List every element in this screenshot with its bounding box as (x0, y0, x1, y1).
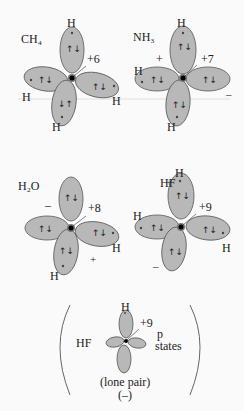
h-label: H (222, 241, 231, 255)
sign-label: + (166, 176, 172, 188)
svg-text:↑↓: ↑↓ (202, 225, 217, 235)
svg-text:↑↓: ↑↓ (38, 75, 53, 85)
h-label: H (133, 209, 142, 223)
sign-label: – (225, 88, 232, 100)
orbital-diagram: ↑↓ ↑↓ ↑↓ ↓↑ CH₄ H H H H +6 ↑↓ ↑↓ ↑↓ ↑↓ N… (0, 0, 244, 411)
lobe-up (119, 310, 133, 338)
states-label: states (155, 339, 182, 353)
h-label: H (177, 16, 186, 30)
left-bracket (60, 305, 70, 395)
svg-text:↓↑: ↓↑ (58, 99, 73, 109)
charge-label: +9 (199, 200, 212, 214)
charge-label: +6 (87, 52, 100, 66)
h-label: H (112, 241, 121, 255)
nucleus (69, 226, 74, 231)
molecule-label: H₂O (18, 179, 40, 193)
right-bracket (190, 305, 200, 395)
svg-text:↑↓: ↑↓ (150, 223, 165, 233)
svg-text:↑↓: ↑↓ (172, 100, 187, 110)
panel-h2o: ↑↓ ↑↓ ↑↓ ↑↓ H₂O H H – + +8 (18, 177, 121, 283)
svg-text:↑↓: ↑↓ (177, 42, 192, 52)
h-label: H (167, 120, 176, 134)
svg-text:↑↓: ↑↓ (92, 228, 107, 238)
panel-hf: ↑↓ ↑↓ ↑↓ ↑↓ HF H H H + – +9 (133, 166, 231, 272)
charge-label: +8 (88, 201, 101, 215)
sign-label: – (152, 260, 159, 272)
nucleus (70, 76, 75, 81)
charge-label: +9 (140, 316, 153, 330)
sign-label: – (44, 198, 52, 212)
svg-text:↑↓: ↑↓ (202, 75, 217, 85)
molecule-label: HF (76, 336, 92, 350)
molecule-label: NH₃ (133, 30, 155, 44)
molecule-label: CH₄ (21, 32, 42, 46)
svg-text:↑↓: ↑↓ (150, 75, 165, 85)
h-label: H (50, 269, 59, 283)
lobe-right (127, 337, 146, 350)
panel-ch4: ↑↓ ↑↓ ↑↓ ↓↑ CH₄ H H H H +6 (21, 16, 121, 134)
svg-text:↑↓: ↑↓ (168, 247, 183, 257)
svg-text:↑↓: ↑↓ (38, 224, 53, 234)
h-label: H (175, 166, 184, 180)
h-label: H (67, 16, 76, 30)
lobe-down (117, 345, 131, 373)
nucleus (179, 225, 184, 230)
charge-label: +7 (201, 52, 214, 66)
h-label: H (52, 120, 61, 134)
panel-nh3: ↑↓ ↑↓ ↑↓ ↑↓ NH₃ H H H + – +7 (133, 16, 232, 134)
h-label: H (134, 64, 143, 78)
svg-text:↑↓: ↑↓ (59, 246, 74, 256)
lone-pair-caption: (lone pair) (100, 375, 150, 389)
sign-label: + (156, 52, 163, 66)
svg-text:↑↓: ↑↓ (64, 193, 79, 203)
panel-hf-p-states: H +9 HF p states (lone pair) (–) (60, 300, 200, 402)
sign-label: + (90, 253, 96, 265)
h-label: H (121, 300, 130, 314)
h-label: H (112, 94, 121, 108)
h-label: H (22, 90, 31, 104)
svg-text:↑↓: ↑↓ (92, 82, 107, 92)
svg-text:↑↓: ↑↓ (175, 191, 190, 201)
nucleus (181, 76, 186, 81)
lone-pair-sign: (–) (118, 388, 132, 402)
svg-text:↑↓: ↑↓ (66, 44, 81, 54)
